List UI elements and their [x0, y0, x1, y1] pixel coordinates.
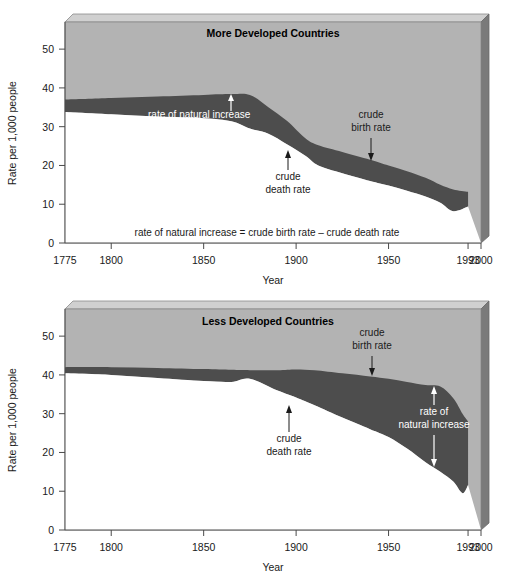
plot-box-side-face	[481, 301, 489, 530]
annotation-crude-death-rate-line1: crude	[276, 433, 301, 444]
y-tick-label: 20	[42, 159, 54, 171]
annotation-crude-birth-rate-line1: crude	[359, 327, 384, 338]
y-tick-label: 30	[42, 121, 54, 133]
plot-box-top-face	[65, 14, 489, 22]
y-tick-label: 50	[42, 330, 54, 342]
annotation-rate-of-natural-increase-label: rate of natural increase	[148, 109, 251, 120]
annotation-crude-birth-rate-line2: birth rate	[352, 340, 392, 351]
y-tick-label: 50	[42, 43, 54, 55]
x-tick-label: 1950	[377, 254, 401, 266]
x-tick-label: 1775	[53, 254, 77, 266]
chart-title: Less Developed Countries	[202, 315, 334, 327]
x-tick-label: 2000	[469, 541, 493, 553]
x-axis-ticks: 1775180018501900195019932000	[53, 530, 493, 553]
chart-svg-more-developed: 01020304050 1775180018501900195019932000…	[0, 0, 517, 287]
y-tick-label: 40	[42, 82, 54, 94]
x-tick-label: 1900	[284, 254, 308, 266]
x-tick-label: 1800	[100, 254, 124, 266]
chart-panel-more-developed: 01020304050 1775180018501900195019932000…	[0, 0, 517, 287]
y-tick-label: 0	[48, 237, 54, 249]
chart-panel-less-developed: 01020304050 1775180018501900195019932000…	[0, 287, 517, 574]
y-axis-title: Rate per 1,000 people	[6, 368, 18, 472]
formula-natural-increase: rate of natural increase = crude birth r…	[135, 227, 400, 238]
plot-box-top-face	[65, 301, 489, 309]
y-tick-label: 10	[42, 485, 54, 497]
x-tick-label: 1950	[377, 541, 401, 553]
chart-title: More Developed Countries	[206, 27, 339, 39]
y-tick-label: 10	[42, 198, 54, 210]
x-tick-label: 1900	[284, 541, 308, 553]
annotation-crude-death-rate-line2: death rate	[265, 184, 310, 195]
figure-demographic-transition: 01020304050 1775180018501900195019932000…	[0, 0, 517, 574]
x-axis-title: Year	[262, 274, 284, 286]
x-axis-ticks: 1775180018501900195019932000	[53, 243, 493, 266]
y-tick-label: 20	[42, 446, 54, 458]
x-tick-label: 1800	[100, 541, 124, 553]
y-tick-label: 40	[42, 369, 54, 381]
chart-svg-less-developed: 01020304050 1775180018501900195019932000…	[0, 287, 517, 574]
annotation-crude-birth-rate-line2: birth rate	[351, 122, 391, 133]
x-axis-title: Year	[262, 561, 284, 573]
annotation-crude-death-rate-line1: crude	[275, 171, 300, 182]
annotation-crude-birth-rate-line1: crude	[358, 109, 383, 120]
y-axis-ticks: 01020304050	[42, 330, 65, 536]
y-tick-label: 30	[42, 408, 54, 420]
y-axis-ticks: 01020304050	[42, 43, 65, 249]
annotation-rate-of-natural-increase-line2: natural increase	[398, 419, 470, 430]
annotation-crude-death-rate-line2: death rate	[266, 446, 311, 457]
x-tick-label: 2000	[469, 254, 493, 266]
y-tick-label: 0	[48, 524, 54, 536]
x-tick-label: 1850	[192, 254, 216, 266]
x-tick-label: 1775	[53, 541, 77, 553]
y-axis-title: Rate per 1,000 people	[6, 81, 18, 185]
plot-box-side-face	[481, 14, 489, 243]
annotation-rate-of-natural-increase-line1: rate of	[420, 406, 449, 417]
x-tick-label: 1850	[192, 541, 216, 553]
